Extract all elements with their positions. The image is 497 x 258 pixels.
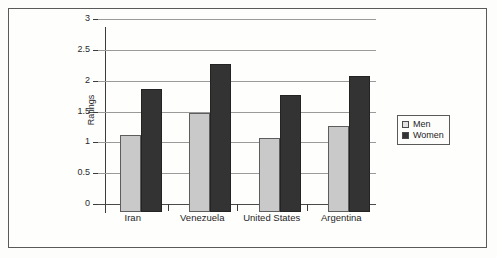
y-axis-tick-label: 3 bbox=[62, 13, 90, 23]
y-axis-tick-label: 1 bbox=[62, 136, 90, 146]
legend-swatch-women-icon bbox=[402, 132, 409, 139]
plot-area bbox=[106, 27, 384, 212]
y-axis-tick-label: 1.5 bbox=[62, 106, 90, 116]
y-axis-tick-label: 0.5 bbox=[62, 167, 90, 177]
bar-women-united-states bbox=[280, 95, 301, 212]
y-axis-tick-label: 0 bbox=[62, 198, 90, 208]
bar-men-united-states bbox=[259, 138, 280, 212]
bar-men-venezuela bbox=[189, 113, 210, 212]
gridline bbox=[98, 19, 376, 20]
x-axis-label-united-states: United States bbox=[237, 212, 307, 223]
bar-men-iran bbox=[120, 135, 141, 212]
y-axis-tick-label: 2.5 bbox=[62, 44, 90, 54]
bar-women-venezuela bbox=[210, 64, 231, 212]
bar-women-argentina bbox=[349, 76, 370, 212]
legend-swatch-men-icon bbox=[402, 121, 409, 128]
bar-men-argentina bbox=[328, 126, 349, 212]
x-axis-label-argentina: Argentina bbox=[307, 212, 377, 223]
legend-item-men: Men bbox=[402, 119, 444, 130]
x-axis-label-venezuela: Venezuela bbox=[168, 212, 238, 223]
legend-label-women: Women bbox=[413, 130, 444, 141]
x-axis-label-iran: Iran bbox=[98, 212, 168, 223]
x-axis-separator-tick bbox=[307, 204, 308, 211]
x-axis-separator-tick bbox=[168, 204, 169, 211]
y-axis-tick-label: 2 bbox=[62, 75, 90, 85]
legend-item-women: Women bbox=[402, 130, 444, 141]
x-axis-separator-tick bbox=[237, 204, 238, 211]
legend-label-men: Men bbox=[413, 119, 431, 130]
figure-border: Ratings 32.521.510.50 IranVenezuelaUnite… bbox=[8, 8, 487, 248]
chart-figure: Ratings 32.521.510.50 IranVenezuelaUnite… bbox=[0, 0, 497, 258]
bar-women-iran bbox=[141, 89, 162, 212]
chart-legend: Men Women bbox=[397, 115, 450, 145]
